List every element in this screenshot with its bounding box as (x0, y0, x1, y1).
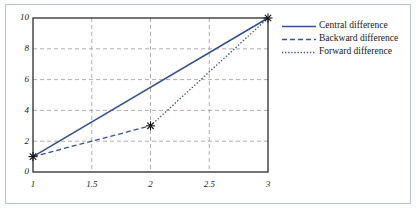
y-tick-label-4: 4 (7, 106, 29, 115)
marker-point-1-1 (29, 152, 38, 161)
y-tick-label-10: 10 (7, 13, 29, 22)
x-tick-label-1p5: 1.5 (78, 180, 106, 189)
y-tick-label-8: 8 (7, 44, 29, 53)
y-tick-label-0: 0 (7, 167, 29, 176)
legend-item-central-difference: Central difference (281, 20, 413, 32)
series-central-difference (33, 18, 268, 157)
x-tick-label-2p5: 2.5 (195, 180, 223, 189)
y-tick-label-6: 6 (7, 75, 29, 84)
x-tick-label-2: 2 (137, 180, 165, 189)
solid-line-icon (281, 21, 317, 32)
x-tick-label-1: 1 (19, 180, 47, 189)
legend-label-forward-difference: Forward difference (317, 47, 392, 57)
y-tick-label-2: 2 (7, 137, 29, 146)
vertical-gridlines (92, 18, 210, 172)
legend-label-backward-difference: Backward difference (317, 34, 398, 44)
dotted-line-icon (281, 47, 317, 58)
x-tick-label-3: 3 (254, 180, 282, 189)
legend-item-forward-difference: Forward difference (281, 46, 413, 58)
figure-container: 10 8 6 4 2 0 1 1.5 2 2.5 3 Central diffe… (0, 0, 416, 212)
marker-point-2-3 (146, 121, 155, 130)
legend-label-central-difference: Central difference (317, 21, 388, 31)
dashed-line-icon (281, 34, 317, 45)
marker-point-3-10 (264, 14, 273, 23)
legend-item-backward-difference: Backward difference (281, 33, 413, 45)
legend: Central difference Backward difference F… (281, 20, 413, 59)
